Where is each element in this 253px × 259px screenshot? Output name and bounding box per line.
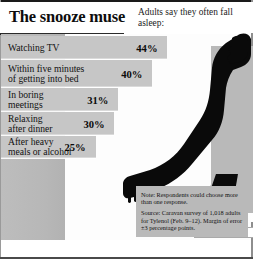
bar-category-label: Within five minutes of getting into bed — [8, 63, 84, 84]
bar-value-label: 30% — [83, 118, 104, 129]
bar-value-label: 25% — [65, 142, 86, 153]
note-source: Source: Caravan survey of 1,018 adults f… — [141, 209, 243, 231]
page-title: The snooze muse — [9, 7, 125, 27]
bar-row: After heavy meals or alcohol25% — [1, 136, 251, 158]
source-note: Note: Respondents could choose more than… — [136, 186, 248, 237]
bar-category-label: Watching TV — [8, 42, 60, 52]
bar-row: Within five minutes of getting into bed4… — [1, 60, 251, 87]
bar-category-label: Relaxing after dinner — [8, 113, 52, 134]
bar-value-label: 44% — [136, 42, 157, 53]
bar-row: Watching TV44% — [1, 36, 251, 59]
bar-value-label: 40% — [121, 68, 142, 79]
note-respondents: Note: Respondents could choose more than… — [141, 191, 243, 205]
bar-row: In boring meetings31% — [1, 88, 251, 111]
bar-value-label: 31% — [87, 94, 108, 105]
bar-chart: Watching TV44%Within five minutes of get… — [1, 34, 251, 159]
bar-separator — [1, 158, 96, 159]
bar-category-label: After heavy meals or alcohol — [8, 137, 71, 158]
bar-category-label: In boring meetings — [8, 89, 43, 110]
bar-row: Relaxing after dinner30% — [1, 112, 251, 135]
infographic-snooze-muse: The snooze muse Adults say they often fa… — [0, 0, 253, 259]
